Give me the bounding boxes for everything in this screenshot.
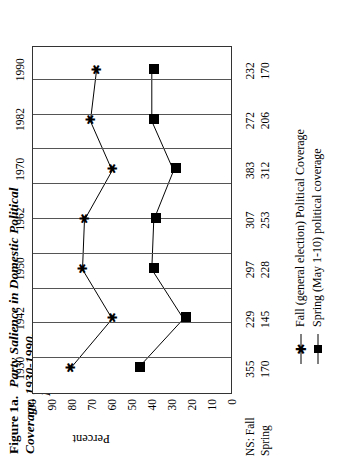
data-point: ✱ bbox=[83, 268, 84, 269]
ns-cell: 383 bbox=[244, 147, 256, 193]
y-tick-label: 30 bbox=[167, 399, 179, 437]
data-point bbox=[153, 268, 154, 269]
y-tick-label: 10 bbox=[207, 399, 219, 437]
gridline bbox=[33, 322, 231, 323]
legend-label-spring: Spring (May 1-10) political coverage bbox=[310, 148, 325, 329]
x-tick-label: 1950 bbox=[14, 246, 26, 292]
ns-row-label: Spring bbox=[259, 396, 271, 456]
y-tick-label: 20 bbox=[187, 399, 199, 437]
legend-label-fall: Fall (general election) Political Covera… bbox=[293, 129, 308, 329]
ns-cell: 253 bbox=[259, 197, 271, 243]
y-tick-label: 90 bbox=[47, 399, 59, 437]
data-point: ✱ bbox=[97, 69, 98, 70]
data-point bbox=[185, 317, 186, 318]
star-marker-icon: ✱ bbox=[293, 332, 308, 366]
figure-1a: Figure 1a.Party Salience in Domestic Pol… bbox=[0, 0, 344, 462]
series-lines bbox=[33, 47, 231, 393]
data-point bbox=[153, 69, 154, 70]
plot-area: 1009080706050403020100193019421950196219… bbox=[32, 46, 232, 394]
svg-text:✱: ✱ bbox=[295, 343, 307, 355]
gridline bbox=[33, 148, 231, 149]
gridline bbox=[33, 183, 231, 184]
ns-row-label: NS: Fall bbox=[244, 396, 256, 456]
ns-cell: 170 bbox=[259, 346, 271, 392]
y-tick-label: 40 bbox=[147, 399, 159, 437]
ns-cell: 170 bbox=[259, 48, 271, 94]
chart-legend: ✱ Fall (general election) Political Cove… bbox=[292, 129, 326, 366]
data-point: ✱ bbox=[91, 119, 92, 120]
star-marker-icon: ✱ bbox=[80, 214, 90, 224]
star-marker-icon: ✱ bbox=[92, 65, 102, 75]
ns-cell: 312 bbox=[259, 147, 271, 193]
gridline bbox=[33, 218, 231, 219]
gridline bbox=[33, 288, 231, 289]
data-point: ✱ bbox=[113, 168, 114, 169]
data-point: ✱ bbox=[85, 218, 86, 219]
square-marker-icon bbox=[149, 64, 159, 74]
x-tick-label: 1982 bbox=[14, 97, 26, 143]
y-tick-label: 0 bbox=[227, 399, 239, 437]
gridline bbox=[33, 357, 231, 358]
x-tick-label: 1962 bbox=[14, 196, 26, 242]
data-point bbox=[139, 367, 140, 368]
data-point bbox=[155, 218, 156, 219]
square-marker-icon bbox=[171, 163, 181, 173]
ns-cell: 272 bbox=[244, 98, 256, 144]
data-point: ✱ bbox=[113, 317, 114, 318]
y-tick-label: 100 bbox=[27, 399, 39, 437]
data-point bbox=[153, 119, 154, 120]
ns-cell: 229 bbox=[244, 296, 256, 342]
star-marker-icon: ✱ bbox=[86, 115, 96, 125]
square-marker-icon bbox=[310, 332, 325, 366]
star-marker-icon: ✱ bbox=[108, 313, 118, 323]
star-marker-icon: ✱ bbox=[108, 164, 118, 174]
x-tick-label: 1942 bbox=[14, 295, 26, 341]
star-marker-icon: ✱ bbox=[78, 264, 88, 274]
square-marker-icon bbox=[151, 213, 161, 223]
ns-cell: 297 bbox=[244, 247, 256, 293]
star-marker-icon: ✱ bbox=[66, 363, 76, 373]
y-tick-label: 70 bbox=[87, 399, 99, 437]
gridline bbox=[33, 79, 231, 80]
data-point: ✱ bbox=[71, 367, 72, 368]
ns-cell: 228 bbox=[259, 247, 271, 293]
x-tick-label: 1990 bbox=[14, 47, 26, 93]
gridline bbox=[33, 114, 231, 115]
legend-item-spring: Spring (May 1-10) political coverage bbox=[309, 129, 326, 366]
y-tick-label: 60 bbox=[107, 399, 119, 437]
ns-cell: 307 bbox=[244, 197, 256, 243]
ns-cell: 355 bbox=[244, 346, 256, 392]
figure-label: Figure 1a. bbox=[6, 396, 22, 454]
rotated-figure-wrapper: Figure 1a.Party Salience in Domestic Pol… bbox=[0, 0, 344, 462]
ns-cell: 206 bbox=[259, 98, 271, 144]
y-tick-label: 50 bbox=[127, 399, 139, 437]
square-marker-icon bbox=[181, 312, 191, 322]
x-tick-label: 1930 bbox=[14, 345, 26, 391]
data-point bbox=[175, 168, 176, 169]
square-marker-icon bbox=[149, 263, 159, 273]
legend-item-fall: ✱ Fall (general election) Political Cove… bbox=[292, 129, 309, 366]
square-marker-icon bbox=[149, 114, 159, 124]
ns-cell: 232 bbox=[244, 48, 256, 94]
gridline bbox=[33, 253, 231, 254]
x-tick-label: 1970 bbox=[14, 146, 26, 192]
y-tick-label: 80 bbox=[67, 399, 79, 437]
square-marker-icon bbox=[135, 362, 145, 372]
ns-cell: 145 bbox=[259, 296, 271, 342]
